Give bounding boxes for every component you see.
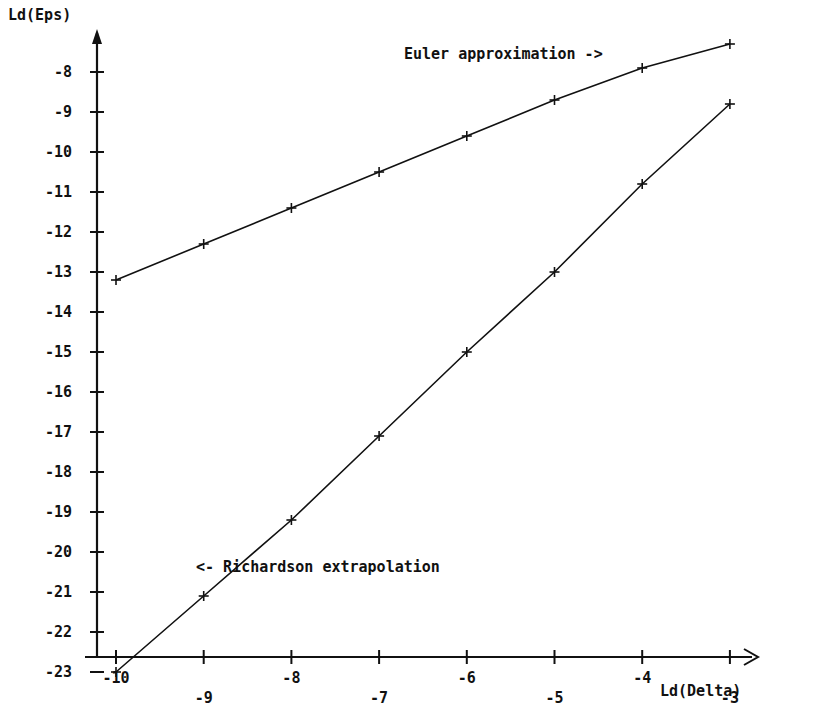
y-axis-arrow-icon — [92, 29, 102, 44]
x-tick-label: -5 — [532, 689, 578, 707]
x-tick-label: -9 — [181, 689, 227, 707]
y-tick-label: -19 — [12, 503, 72, 521]
series-line — [116, 104, 730, 672]
y-axis-title: Ld(Eps) — [8, 6, 71, 24]
x-tick-label: -6 — [444, 669, 490, 687]
x-tick-label: -7 — [356, 689, 402, 707]
y-tick-label: -8 — [12, 63, 72, 81]
y-tick-label: -14 — [12, 303, 72, 321]
y-tick-label: -23 — [12, 663, 72, 681]
y-tick-label: -9 — [12, 103, 72, 121]
annotation-euler-approximation: Euler approximation -> — [404, 45, 603, 63]
y-tick-label: -18 — [12, 463, 72, 481]
y-tick-label: -22 — [12, 623, 72, 641]
series-euler — [111, 39, 735, 285]
y-tick-label: -16 — [12, 383, 72, 401]
data-series — [111, 39, 735, 677]
y-tick-label: -20 — [12, 543, 72, 561]
x-tick-label: -8 — [268, 669, 314, 687]
x-tick-label: -10 — [93, 669, 139, 687]
y-tick-label: -21 — [12, 583, 72, 601]
y-tick-label: -10 — [12, 143, 72, 161]
series-richardson — [111, 99, 735, 677]
x-tick-label: -4 — [619, 669, 665, 687]
y-tick-label: -17 — [12, 423, 72, 441]
chart-container: Ld(Eps) Ld(Delta) -8-9-10-11-12-13-14-15… — [0, 0, 820, 710]
x-tick-label: -3 — [707, 689, 753, 707]
y-tick-label: -15 — [12, 343, 72, 361]
y-tick-label: -12 — [12, 223, 72, 241]
annotation-richardson-extrapolation: <- Richardson extrapolation — [196, 558, 440, 576]
y-tick-label: -13 — [12, 263, 72, 281]
chart-plot-area — [0, 0, 820, 710]
y-tick-label: -11 — [12, 183, 72, 201]
